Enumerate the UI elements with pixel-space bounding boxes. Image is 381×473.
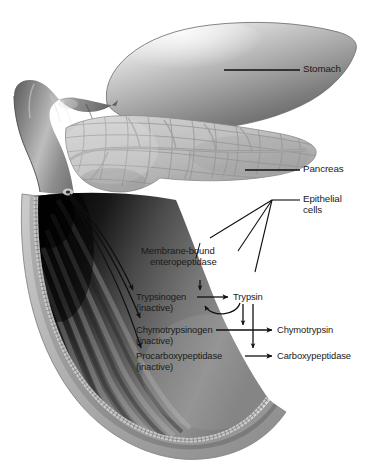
zymogen-chymotrypsinogen-state: (inactive): [136, 336, 173, 347]
product-carboxypeptidase: Carboxypeptidase: [277, 351, 351, 362]
product-chymotrypsin: Chymotrypsin: [277, 325, 333, 336]
zymogen-chymotrypsinogen: Chymotrypsinogen: [136, 325, 213, 336]
callout-label-stomach: Stomach: [303, 64, 341, 75]
duodenal-papilla: [63, 188, 73, 195]
callout-label-epithelial-cells: Epithelial: [303, 194, 342, 205]
callout-label-pancreas: Pancreas: [303, 164, 344, 175]
zymogen-procarboxypeptidase: Procarboxypeptidase: [136, 351, 222, 362]
zymogen-procarboxypeptidase-state: (inactive): [136, 362, 173, 373]
zymogen-trypsinogen: Trypsinogen: [136, 292, 186, 303]
callout-label-epithelial-cells-line2: cells: [303, 205, 322, 216]
zymogen-trypsinogen-state: (inactive): [136, 303, 173, 314]
enteropeptidase-label-line2: enteropeptidase: [150, 257, 217, 268]
enteropeptidase-label-line1: Membrane-bound: [141, 246, 215, 257]
figure-canvas: Activation of pancreatic proteases in th…: [0, 0, 381, 473]
product-trypsin: Trypsin: [233, 292, 263, 303]
